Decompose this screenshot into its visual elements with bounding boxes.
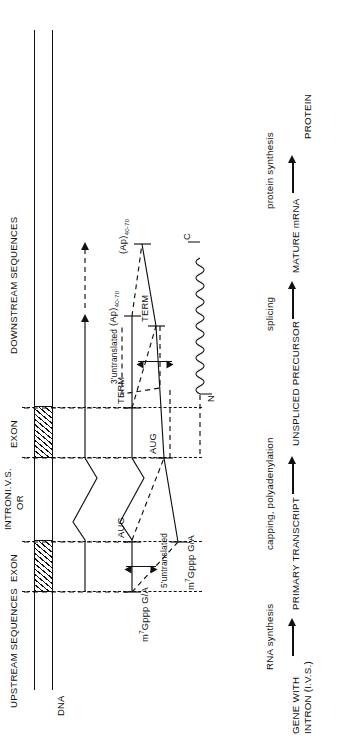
flow-node-unspliced-precursor: UNSPLICED PRECURSOR <box>290 321 301 446</box>
flow-chart-strip: GENE WITH INTRON (I.V.S.) PRIMARY TRANSC… <box>228 0 356 746</box>
figure-canvas: GENE WITH INTRON (I.V.S.) PRIMARY TRANSC… <box>0 0 356 746</box>
flow-node-gene-line1: GENE WITH <box>290 677 301 734</box>
flow-edge-rna-synthesis: RNA synthesis <box>264 604 275 670</box>
flow-node-primary-transcript: PRIMARY TRANSCRIPT <box>290 497 301 610</box>
flow-node-gene-line2: INTRON (I.V.S.) <box>302 661 313 734</box>
flow-node-mature-mrna: MATURE mRNA <box>290 199 301 273</box>
flow-node-protein: PROTEIN <box>302 94 313 139</box>
landmark-guides <box>0 0 228 746</box>
flow-edge-capping-polyadenylation: capping, polyadenylation <box>264 437 275 550</box>
flow-edge-protein-synthesis: protein synthesis <box>264 132 275 209</box>
flow-edge-splicing: splicing <box>264 297 275 331</box>
